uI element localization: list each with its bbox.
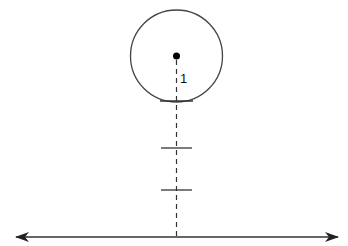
center-point <box>173 53 180 60</box>
circle-rolling-diagram: 1 <box>0 0 348 246</box>
radius-label: 1 <box>180 71 187 86</box>
